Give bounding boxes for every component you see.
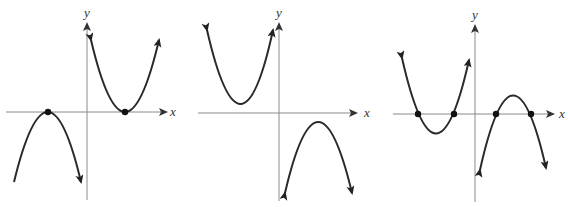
upward-parabola (207, 30, 273, 104)
graph-panel-2: x y (198, 5, 370, 201)
x-axis-label: x (363, 105, 370, 120)
graph-panel-1: x y (6, 5, 176, 200)
vertex-point (122, 109, 128, 115)
x-axis-label: x (169, 104, 176, 119)
vertex-point (45, 109, 51, 115)
downward-parabola (14, 112, 81, 182)
upward-parabola (402, 58, 469, 134)
root-point (493, 111, 499, 117)
y-axis-label: y (82, 5, 90, 20)
root-point (528, 111, 534, 117)
downward-parabola (285, 122, 352, 193)
root-point (415, 111, 421, 117)
y-axis-label: y (274, 5, 282, 20)
figure-canvas: x y x y x y (0, 0, 568, 207)
upward-parabola (91, 40, 159, 112)
graph-panel-3: x y (393, 7, 565, 202)
downward-parabola (480, 95, 546, 170)
x-axis-label: x (558, 106, 565, 121)
y-axis-label: y (470, 7, 478, 22)
root-point (451, 111, 457, 117)
